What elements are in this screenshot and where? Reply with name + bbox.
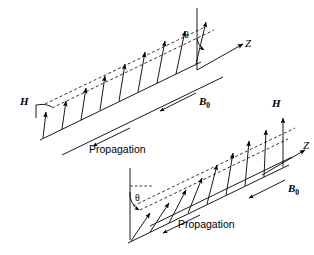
lower-b0-subscript: 0 xyxy=(295,188,299,197)
figure-canvas: H B0 Z θ Propagation H B0 Z θ Propagatio… xyxy=(0,0,314,255)
upper-b0-subscript: 0 xyxy=(206,101,210,110)
upper-theta-label: θ xyxy=(184,30,189,40)
upper-h-leader xyxy=(36,104,52,107)
lower-theta-label: θ xyxy=(135,193,140,203)
upper-propagation-label: Propagation xyxy=(89,144,146,155)
upper-z-axis xyxy=(197,44,243,70)
upper-z-label: Z xyxy=(245,38,251,49)
lower-h-label: H xyxy=(272,98,281,109)
upper-b0-arrow xyxy=(160,93,196,111)
lower-back-baseline xyxy=(150,157,292,226)
lower-propagation-label: Propagation xyxy=(178,219,235,230)
wave-diagram-svg xyxy=(0,0,314,255)
upper-envelope-front xyxy=(45,26,207,104)
lower-z-axis xyxy=(262,150,305,175)
lower-b0-arrow xyxy=(249,180,285,198)
upper-h-label: H xyxy=(20,96,29,107)
lower-envelope-back xyxy=(140,139,288,210)
lower-z-label: Z xyxy=(303,140,309,151)
upper-h-vectors xyxy=(43,22,206,138)
upper-diagram xyxy=(36,8,243,155)
upper-b0-label: B0 xyxy=(199,96,210,110)
upper-front-baseline xyxy=(40,62,201,140)
lower-b0-label: B0 xyxy=(288,183,299,197)
